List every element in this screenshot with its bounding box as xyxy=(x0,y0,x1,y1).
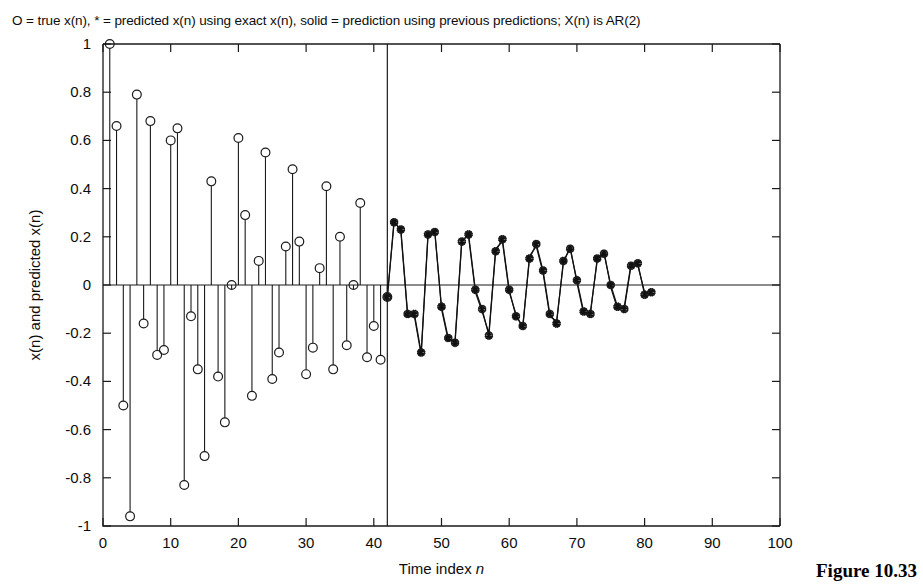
circle-marker xyxy=(315,264,324,273)
circle-marker xyxy=(214,372,223,381)
circle-marker xyxy=(376,355,385,364)
x-axis-tick-label: 90 xyxy=(704,534,721,551)
circle-marker xyxy=(193,365,202,374)
circle-marker xyxy=(302,370,311,379)
circle-marker xyxy=(308,343,317,352)
figure-caption: Figure 10.33 xyxy=(816,560,917,582)
y-axis-title: x(n) and predicted x(n) xyxy=(26,210,43,361)
circle-marker xyxy=(234,134,243,143)
circle-marker xyxy=(288,165,297,174)
circle-marker xyxy=(336,232,345,241)
y-axis-tick-label: 1 xyxy=(83,35,91,52)
x-axis-tick-label: 20 xyxy=(230,534,247,551)
circle-marker xyxy=(241,211,250,220)
circle-marker xyxy=(254,257,263,266)
x-axis-tick-label: 100 xyxy=(767,534,792,551)
y-axis-tick-label: 0.4 xyxy=(70,180,91,197)
x-axis-tick-label: 60 xyxy=(501,534,518,551)
circle-marker xyxy=(200,452,209,461)
figure-root: O = true x(n), * = predicted x(n) using … xyxy=(0,0,923,588)
circle-marker xyxy=(173,124,182,133)
circle-marker xyxy=(329,365,338,374)
y-axis-tick-label: 0 xyxy=(83,276,91,293)
circle-marker xyxy=(281,242,290,251)
circle-marker xyxy=(132,90,141,99)
circle-marker xyxy=(166,136,175,145)
chart-plot-area: -1-0.8-0.6-0.4-0.200.20.40.60.8101020304… xyxy=(0,0,923,588)
y-axis-tick-label: -0.6 xyxy=(65,421,91,438)
circle-marker xyxy=(295,237,304,246)
circle-marker xyxy=(275,348,284,357)
circle-marker xyxy=(369,322,378,331)
circle-marker xyxy=(220,418,229,427)
x-axis-tick-label: 10 xyxy=(162,534,179,551)
x-axis-tick-label: 70 xyxy=(569,534,586,551)
circle-marker xyxy=(342,341,351,350)
y-axis-tick-label: 0.2 xyxy=(70,228,91,245)
circle-marker xyxy=(363,353,372,362)
circle-marker xyxy=(356,199,365,208)
circle-marker xyxy=(160,346,169,355)
y-axis-tick-label: 0.8 xyxy=(70,83,91,100)
x-axis-tick-label: 30 xyxy=(298,534,315,551)
circle-marker xyxy=(261,148,270,157)
x-axis-tick-label: 40 xyxy=(365,534,382,551)
circle-marker xyxy=(139,319,148,328)
y-axis-tick-label: 0.6 xyxy=(70,131,91,148)
circle-marker xyxy=(126,512,135,521)
circle-marker xyxy=(112,122,121,131)
circle-marker xyxy=(248,391,257,400)
circle-marker xyxy=(146,117,155,126)
circle-marker xyxy=(268,375,277,384)
x-axis-tick-label: 50 xyxy=(433,534,450,551)
y-axis-tick-label: -0.4 xyxy=(65,372,91,389)
x-axis-tick-label: 80 xyxy=(636,534,653,551)
x-axis-tick-label: 0 xyxy=(99,534,107,551)
circle-marker xyxy=(187,312,196,321)
x-axis-title: Time index n xyxy=(399,560,484,577)
circle-marker xyxy=(119,401,128,410)
y-axis-tick-label: -0.8 xyxy=(65,469,91,486)
circle-marker xyxy=(207,177,216,186)
y-axis-tick-label: -0.2 xyxy=(65,324,91,341)
circle-marker xyxy=(322,182,331,191)
y-axis-tick-label: -1 xyxy=(78,517,91,534)
circle-marker xyxy=(180,481,189,490)
